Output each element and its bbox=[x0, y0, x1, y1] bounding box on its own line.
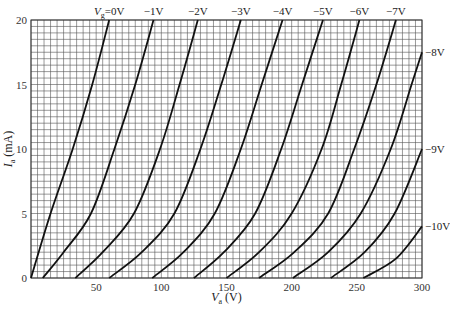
curve-label: −2V bbox=[188, 5, 208, 17]
curve-label: −7V bbox=[386, 5, 406, 17]
y-tick-label: 10 bbox=[16, 143, 28, 155]
x-tick-label: 100 bbox=[153, 281, 170, 293]
x-axis-title: Va (V) bbox=[211, 290, 242, 306]
curve-label: −1V bbox=[144, 5, 164, 17]
y-tick-label: 20 bbox=[16, 14, 28, 26]
y-tick-label: 15 bbox=[16, 79, 28, 91]
curve-label: −6V bbox=[350, 5, 370, 17]
y-tick-label: 0 bbox=[22, 272, 28, 284]
curve-label: −3V bbox=[231, 5, 251, 17]
x-tick-label: 50 bbox=[91, 281, 103, 293]
y-axis-title: Ia (mA) bbox=[1, 131, 17, 169]
grid bbox=[31, 20, 422, 278]
axis-ticks: 5010015020025030005101520 bbox=[16, 14, 431, 293]
x-tick-label: 250 bbox=[349, 281, 366, 293]
curve-label: Vg=0V bbox=[94, 5, 124, 20]
curve-label: −9V bbox=[425, 143, 445, 155]
x-tick-label: 200 bbox=[283, 281, 300, 293]
curve-label: −8V bbox=[425, 46, 445, 58]
plate-characteristics-chart: 5010015020025030005101520 Vg=0V−1V−2V−3V… bbox=[0, 0, 450, 310]
curve-label: −10V bbox=[425, 220, 450, 232]
curve-label: −5V bbox=[313, 5, 333, 17]
x-tick-label: 300 bbox=[414, 281, 431, 293]
curve-label: −4V bbox=[273, 5, 293, 17]
y-tick-label: 5 bbox=[22, 208, 28, 220]
